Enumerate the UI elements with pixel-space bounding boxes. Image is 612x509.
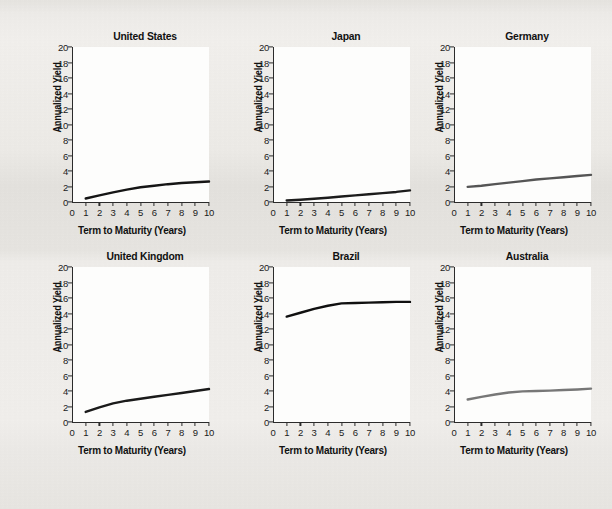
x-tick-mark (195, 202, 196, 206)
y-tick-label: 14 (259, 88, 269, 99)
x-axis-label: Term to Maturity (Years) (60, 224, 204, 236)
x-tick-label: 6 (353, 427, 358, 438)
x-tick-label: 7 (165, 207, 170, 218)
x-tick-label: 7 (165, 427, 170, 438)
x-tick-mark (99, 202, 100, 206)
x-tick-label: 0 (271, 427, 276, 438)
y-tick-label: 10 (58, 339, 68, 350)
x-tick-mark (126, 202, 127, 206)
x-tick-label: 0 (452, 207, 457, 218)
yield-curve-line (454, 267, 591, 422)
x-axis-label: Term to Maturity (Years) (442, 444, 586, 456)
y-tick-label: 18 (58, 57, 68, 68)
x-tick-label: 0 (271, 207, 276, 218)
yield-curve-line (72, 267, 209, 422)
y-tick-label: 14 (440, 88, 450, 99)
x-tick-mark (508, 202, 509, 206)
yield-curve-line (273, 47, 410, 202)
chart-panel-germany: GermanyAnnualized YieldTerm to Maturity … (412, 30, 612, 270)
x-tick-label: 10 (204, 427, 214, 438)
x-tick-mark (355, 202, 356, 206)
x-tick-label: 7 (366, 427, 371, 438)
x-tick-mark (549, 422, 550, 426)
y-tick-label: 16 (58, 293, 68, 304)
x-tick-mark (522, 422, 523, 426)
x-tick-label: 7 (547, 427, 552, 438)
x-tick-mark (327, 202, 328, 206)
x-tick-mark (195, 422, 196, 426)
y-tick-label: 20 (440, 42, 450, 53)
y-tick-label: 20 (58, 42, 68, 53)
x-tick-label: 5 (138, 207, 143, 218)
plot-area-wrapper: 02468101214161820012345678910 (454, 47, 591, 202)
x-tick-mark (590, 422, 591, 426)
x-tick-mark (300, 202, 301, 206)
x-tick-mark (99, 422, 100, 426)
x-tick-mark (286, 422, 287, 426)
x-tick-mark (167, 422, 168, 426)
y-tick-label: 16 (259, 293, 269, 304)
x-tick-mark (181, 202, 182, 206)
y-tick-label: 18 (58, 277, 68, 288)
x-tick-mark (563, 422, 564, 426)
x-tick-label: 10 (586, 207, 596, 218)
plot-area-wrapper: 02468101214161820012345678910 (454, 267, 591, 422)
x-tick-label: 4 (124, 207, 129, 218)
x-tick-mark (396, 202, 397, 206)
x-tick-label: 4 (124, 427, 129, 438)
x-tick-mark (113, 202, 114, 206)
plot-area-wrapper: 02468101214161820012345678910 (273, 267, 410, 422)
y-tick-label: 10 (440, 339, 450, 350)
x-tick-label: 9 (575, 427, 580, 438)
y-tick-label: 12 (259, 324, 269, 335)
x-tick-mark (536, 202, 537, 206)
x-tick-mark (495, 422, 496, 426)
x-tick-mark (590, 202, 591, 206)
x-tick-label: 1 (465, 207, 470, 218)
x-tick-mark (467, 422, 468, 426)
x-tick-mark (409, 422, 410, 426)
x-tick-label: 7 (547, 207, 552, 218)
yield-curve-line (273, 267, 410, 422)
x-tick-mark (314, 202, 315, 206)
x-tick-mark (85, 422, 86, 426)
x-tick-label: 6 (152, 207, 157, 218)
y-tick-label: 10 (440, 119, 450, 130)
plot-area-wrapper: 02468101214161820012345678910 (72, 47, 209, 202)
yield-curve-line (454, 47, 591, 202)
x-tick-mark (154, 202, 155, 206)
x-tick-label: 8 (561, 427, 566, 438)
y-tick-label: 20 (440, 262, 450, 273)
x-tick-label: 5 (138, 427, 143, 438)
x-tick-label: 4 (506, 207, 511, 218)
y-tick-label: 12 (440, 104, 450, 115)
x-tick-mark (368, 422, 369, 426)
y-tick-label: 10 (58, 119, 68, 130)
x-tick-label: 6 (353, 207, 358, 218)
x-tick-label: 5 (520, 427, 525, 438)
x-tick-mark (382, 202, 383, 206)
y-tick-label: 16 (440, 73, 450, 84)
x-tick-label: 0 (452, 427, 457, 438)
x-tick-mark (495, 202, 496, 206)
x-tick-label: 6 (534, 207, 539, 218)
x-tick-mark (341, 422, 342, 426)
x-tick-mark (481, 202, 482, 206)
x-tick-label: 4 (325, 427, 330, 438)
x-tick-label: 9 (575, 207, 580, 218)
x-tick-label: 2 (479, 207, 484, 218)
x-tick-label: 9 (394, 207, 399, 218)
x-tick-label: 3 (111, 207, 116, 218)
x-tick-label: 6 (534, 427, 539, 438)
x-tick-mark (140, 202, 141, 206)
chart-panel-australia: AustraliaAnnualized YieldTerm to Maturit… (412, 250, 612, 490)
y-tick-label: 14 (440, 308, 450, 319)
x-tick-mark (467, 202, 468, 206)
y-tick-label: 10 (259, 119, 269, 130)
x-tick-mark (314, 422, 315, 426)
x-tick-mark (286, 202, 287, 206)
x-tick-label: 1 (284, 427, 289, 438)
x-tick-label: 9 (193, 427, 198, 438)
y-tick-label: 16 (259, 73, 269, 84)
x-tick-mark (327, 422, 328, 426)
